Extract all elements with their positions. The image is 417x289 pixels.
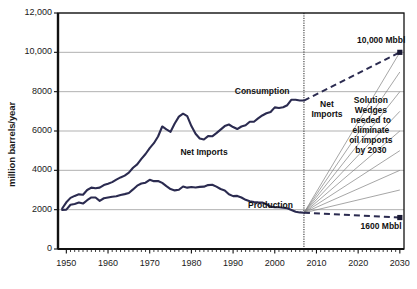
oil-consumption-production-chart: million barrels/year 0200040006000800010… (0, 0, 417, 289)
production-projection-endpoint-marker (397, 215, 402, 220)
net-imports-label: Net Imports (180, 147, 227, 157)
y-tick-label: 4000 (32, 164, 52, 174)
production-label: Production (248, 200, 293, 210)
x-tick-label: 2030 (376, 258, 417, 268)
consumption-projection-endpoint-marker (397, 50, 402, 55)
net-imports-future-label: NetImports (311, 99, 342, 119)
y-tick-label: 2000 (32, 204, 52, 214)
solution-wedges-label: SolutionWedgesneeded toeliminateoil impo… (349, 95, 392, 155)
consumption-label: Consumption (235, 86, 290, 96)
y-tick-label: 10,000 (24, 46, 52, 56)
y-tick-label: 8000 (32, 86, 52, 96)
y-tick-label: 0 (47, 243, 52, 253)
lower-endpoint-label: 1600 Mbbl (361, 221, 402, 231)
y-tick-label: 12,000 (24, 7, 52, 17)
upper-endpoint-label: 10,000 Mbbl (357, 35, 405, 45)
y-tick-label: 6000 (32, 125, 52, 135)
